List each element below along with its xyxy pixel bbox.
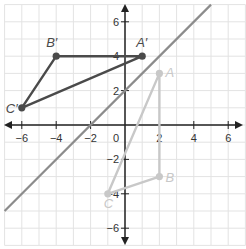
y-tick-label: −2 — [106, 153, 119, 165]
x-tick-label: 4 — [191, 132, 197, 144]
y-tick-label: −6 — [106, 222, 119, 234]
vertex-label: C′ — [6, 101, 18, 116]
arrow-right-icon — [235, 121, 243, 129]
triangle — [22, 56, 142, 108]
x-tick-label: −6 — [16, 132, 29, 144]
x-tick-label: −2 — [84, 132, 97, 144]
origin-label: 0 — [113, 132, 119, 144]
vertex-label: A′ — [135, 35, 148, 50]
vertex-point — [139, 53, 146, 60]
coordinate-plane: −6−4−2246642−2−4−60 ABCA′B′C′ — [0, 0, 246, 249]
arrow-down-icon — [121, 237, 129, 245]
vertex-point — [18, 104, 25, 111]
vertex-point — [156, 70, 163, 77]
arrow-left-icon — [4, 121, 12, 129]
y-tick-label: 6 — [113, 16, 119, 28]
vertex-point — [156, 173, 163, 180]
x-tick-label: −4 — [50, 132, 63, 144]
axes — [4, 4, 243, 245]
x-tick-label: 6 — [225, 132, 231, 144]
arrow-up-icon — [121, 4, 129, 12]
y-tick-label: 2 — [113, 85, 119, 97]
vertex-label: B′ — [46, 35, 58, 50]
vertex-label: B — [165, 170, 174, 185]
vertex-point — [53, 53, 60, 60]
vertex-label: A — [164, 65, 174, 80]
vertex-label: C — [104, 196, 114, 211]
